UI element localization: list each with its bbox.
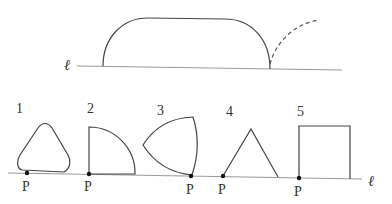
point-p xyxy=(87,172,91,176)
triangle xyxy=(223,129,278,177)
point-label: P xyxy=(186,182,194,197)
reuleaux-triangle xyxy=(143,117,197,175)
top-figure: ℓ xyxy=(64,18,342,73)
traced-curve xyxy=(103,18,270,69)
shape-number: 4 xyxy=(226,104,233,119)
point-label: P xyxy=(218,182,226,197)
point-p xyxy=(221,174,225,178)
shape-2: 2 P xyxy=(84,101,135,194)
diagram: ℓ ℓ 1 P 2 P 3 P 4 xyxy=(0,0,392,204)
top-line-label: ℓ xyxy=(64,57,70,73)
point-label: P xyxy=(22,179,30,194)
point-p xyxy=(25,171,29,175)
point-p xyxy=(189,174,193,178)
quarter-circle xyxy=(89,127,135,174)
shape-3: 3 P xyxy=(143,103,197,197)
point-p xyxy=(297,176,301,180)
shape-number: 5 xyxy=(297,104,304,119)
bottom-figure: ℓ 1 P 2 P 3 P 4 P xyxy=(8,101,374,199)
bottom-line-label: ℓ xyxy=(368,173,374,189)
square xyxy=(299,126,350,179)
rounded-triangle xyxy=(18,124,70,173)
point-label: P xyxy=(84,179,92,194)
shape-4: 4 P xyxy=(218,104,278,197)
top-line xyxy=(77,66,342,70)
shape-5: 5 P xyxy=(294,104,350,199)
shape-1: 1 P xyxy=(16,101,70,194)
shape-number: 1 xyxy=(16,101,23,116)
shape-number: 3 xyxy=(157,103,164,118)
shape-number: 2 xyxy=(87,101,94,116)
dashed-continuation xyxy=(270,20,318,64)
point-label: P xyxy=(294,184,302,199)
